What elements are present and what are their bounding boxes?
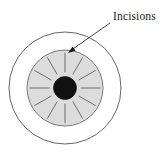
eye-diagram: Incisions <box>0 0 165 154</box>
leader-line <box>70 23 110 51</box>
pupil-disc <box>54 77 77 100</box>
figure-container: Incisions <box>0 0 165 154</box>
incisions-label: Incisions <box>113 10 156 22</box>
